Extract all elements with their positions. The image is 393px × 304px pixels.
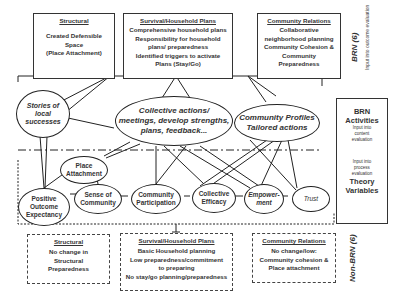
right-panel-title: Activities [337, 116, 387, 125]
top-structural-line: Created Defensible [34, 32, 114, 40]
top-community-line: Collaborative [258, 26, 340, 34]
top-survival-line: Comprehensive household plans [124, 26, 232, 34]
bottom-community-box: Community Relations No change/low: Commu… [252, 233, 336, 283]
right-panel-title: BRN [337, 107, 387, 116]
stories-ellipse: Stories of local successes [16, 90, 70, 138]
bottom-survival-box: Survival/Household Plans Basic Household… [120, 233, 233, 291]
top-survival-line: plans/ preparedness [124, 43, 232, 51]
top-community-line: Community Cohesion & [258, 43, 340, 51]
empowerment-ellipse: Empower- ment [244, 184, 284, 214]
collective-actions-ellipse: Collective actions/ meetings, develop st… [115, 96, 233, 146]
non-brn-side-label: Non-BRN (6) [341, 234, 359, 282]
top-community-line: neighborhood planning [258, 35, 340, 43]
bottom-community-header: Community Relations [253, 237, 335, 245]
top-community-box: Community Relations Collaborative neighb… [257, 13, 341, 79]
community-participation-ellipse: Community Participation [131, 184, 181, 214]
top-community-line: Community [258, 52, 340, 60]
bottom-structural-box: Structural No change in Structural Prepa… [27, 234, 110, 284]
collective-efficacy-ellipse: Collective Efficacy [192, 183, 236, 213]
top-survival-line: Responsibility for household [124, 35, 232, 43]
bottom-survival-header: Survival/Household Plans [121, 237, 232, 245]
top-community-header: Community Relations [258, 17, 340, 25]
top-structural-box: Structural Created Defensible Space (Pla… [33, 13, 115, 79]
brn-side-sub: Input into outcome evaluation [355, 20, 373, 70]
top-structural-line: Space [34, 41, 114, 49]
right-panel-title: Variables [337, 186, 387, 195]
top-survival-line: Plans (Stay/Go) [124, 60, 232, 68]
right-panel: BRN Activities Input into content evalua… [336, 98, 388, 224]
place-attachment-ellipse: Place Attachment [60, 156, 108, 184]
top-community-line: Preparedness [258, 60, 340, 68]
bottom-structural-header: Structural [28, 238, 109, 246]
community-profiles-ellipse: Community Profiles Tailored actions [234, 104, 320, 142]
positive-outcome-ellipse: Positive Outcome Expectancy [18, 188, 70, 226]
top-structural-header: Structural [34, 17, 114, 25]
sense-of-community-ellipse: Sense of Community [74, 184, 122, 214]
trust-ellipse: Trust [292, 186, 330, 212]
right-panel-title: Theory [337, 177, 387, 186]
top-structural-line: (Place Attachment) [34, 49, 114, 57]
top-survival-line: Identified triggers to activate [124, 52, 232, 60]
top-survival-box: Survival/Household Plans Comprehensive h… [123, 13, 233, 79]
top-survival-header: Survival/Household Plans [124, 17, 232, 25]
